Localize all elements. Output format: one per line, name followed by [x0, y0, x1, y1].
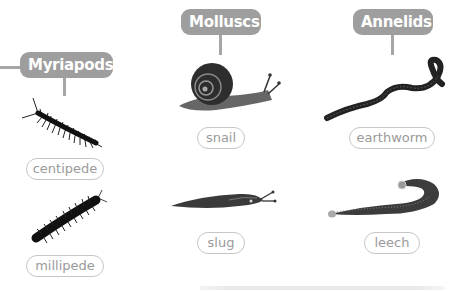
label-leech: leech [364, 232, 420, 254]
label-slug: slug [197, 232, 245, 254]
connector-line-left [0, 66, 22, 69]
slug-icon [169, 188, 279, 216]
centipede-icon [18, 95, 108, 150]
label-centipede: centipede [26, 158, 104, 180]
millipede-icon [28, 188, 108, 250]
footer-strip [200, 286, 445, 290]
heading-myriapods: Myriapods [20, 52, 113, 78]
heading-annelids: Annelids [353, 9, 433, 35]
earthworm-icon [322, 56, 457, 124]
label-millipede: millipede [26, 255, 104, 277]
connector-stem-molluscs [219, 35, 222, 55]
leech-icon [326, 176, 446, 222]
snail-icon [176, 62, 282, 114]
connector-stem-myriapods [63, 78, 66, 96]
label-earthworm: earthworm [349, 127, 435, 149]
connector-stem-annelids [391, 35, 394, 55]
heading-molluscs: Molluscs [181, 9, 261, 35]
label-snail: snail [197, 127, 245, 149]
